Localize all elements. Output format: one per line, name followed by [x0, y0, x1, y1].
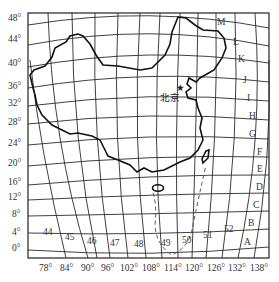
- svg-text:45: 45: [65, 232, 75, 242]
- svg-text:C: C: [253, 200, 259, 210]
- svg-text:36°: 36°: [8, 81, 22, 91]
- svg-text:M: M: [217, 17, 226, 27]
- svg-text:52: 52: [224, 224, 234, 234]
- svg-text:138°: 138°: [250, 263, 268, 273]
- svg-text:E: E: [257, 164, 263, 174]
- svg-text:B: B: [248, 218, 254, 228]
- svg-text:120°: 120°: [185, 263, 203, 273]
- latitude-labels: 48° 44° 40° 36° 32° 28° 24° 20° 16° 12° …: [8, 13, 22, 253]
- svg-text:32°: 32°: [8, 98, 22, 108]
- svg-text:126°: 126°: [207, 263, 225, 273]
- svg-text:90°: 90°: [81, 263, 95, 273]
- svg-text:49: 49: [161, 238, 171, 248]
- longitude-labels: 78° 84° 90° 96° 102° 108° 114° 120° 126°…: [39, 263, 268, 273]
- svg-text:0°: 0°: [12, 243, 21, 253]
- svg-text:96°: 96°: [101, 263, 115, 273]
- svg-text:4°: 4°: [12, 227, 21, 237]
- svg-text:I: I: [247, 93, 250, 103]
- svg-text:47: 47: [110, 238, 120, 248]
- svg-text:H: H: [249, 111, 256, 121]
- svg-text:132°: 132°: [228, 263, 246, 273]
- svg-text:50: 50: [182, 235, 192, 245]
- svg-text:78°: 78°: [39, 263, 53, 273]
- svg-text:44: 44: [43, 227, 53, 237]
- capital-label: 北京: [160, 92, 180, 103]
- svg-text:8°: 8°: [12, 209, 21, 219]
- svg-text:12°: 12°: [8, 192, 22, 202]
- svg-text:84°: 84°: [60, 263, 74, 273]
- svg-text:K: K: [238, 54, 245, 64]
- svg-text:24°: 24°: [8, 138, 22, 148]
- svg-text:48: 48: [134, 239, 144, 249]
- svg-text:28°: 28°: [8, 117, 22, 127]
- map-frame: [28, 13, 269, 258]
- svg-text:D: D: [256, 182, 263, 192]
- svg-text:44°: 44°: [8, 34, 22, 44]
- graticule: [28, 13, 269, 258]
- svg-text:46: 46: [87, 236, 97, 246]
- svg-text:48°: 48°: [8, 13, 22, 23]
- zone-numbers: 44 45 46 47 48 49 50 51 52: [43, 224, 234, 249]
- svg-text:114°: 114°: [164, 263, 182, 273]
- svg-text:A: A: [244, 237, 251, 247]
- svg-text:J: J: [243, 75, 247, 85]
- svg-text:20°: 20°: [8, 158, 22, 168]
- svg-text:L: L: [233, 37, 239, 47]
- svg-text:G: G: [249, 129, 256, 139]
- svg-text:16°: 16°: [8, 177, 22, 187]
- svg-text:108°: 108°: [142, 263, 160, 273]
- svg-text:F: F: [257, 147, 262, 157]
- map-figure: ★ 北京 48° 44° 40° 36° 32° 28° 24° 20° 16°…: [0, 0, 279, 282]
- svg-text:51: 51: [203, 230, 213, 240]
- svg-text:40°: 40°: [8, 58, 22, 68]
- svg-text:102°: 102°: [120, 263, 138, 273]
